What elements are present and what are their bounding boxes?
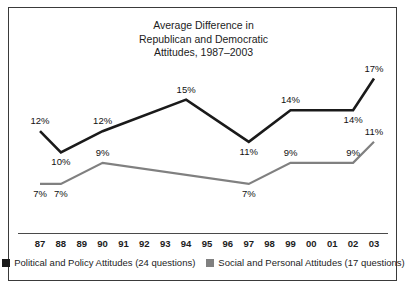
- x-axis-tick-88: 88: [56, 238, 67, 249]
- x-axis-tick-03: 03: [369, 238, 380, 249]
- series-line-social: [40, 142, 374, 184]
- x-axis-tick-98: 98: [264, 238, 275, 249]
- data-point-label: 17%: [364, 63, 383, 74]
- data-point-label: 7%: [33, 188, 47, 199]
- legend-swatch-icon: [2, 259, 10, 267]
- x-axis-line: [18, 233, 388, 234]
- x-axis-tick-93: 93: [160, 238, 171, 249]
- x-axis-tick-00: 00: [306, 238, 317, 249]
- x-axis-tick-92: 92: [139, 238, 150, 249]
- series-line-political: [40, 79, 374, 153]
- x-axis-tick-91: 91: [118, 238, 129, 249]
- data-point-label: 12%: [93, 115, 112, 126]
- data-point-label: 10%: [51, 156, 70, 167]
- data-point-label: 11%: [365, 126, 383, 137]
- x-axis-tick-97: 97: [243, 238, 254, 249]
- x-axis-tick-labels: 8788899091929394959697989900010203: [9, 238, 398, 254]
- legend-item-social: Social and Personal Attitudes (17 questi…: [206, 257, 404, 268]
- legend-swatch-icon: [206, 259, 214, 267]
- plot-area: 12%10%12%15%11%14%14%17% 7%7%9%7%9%9%11%: [9, 8, 398, 228]
- legend-label: Social and Personal Attitudes (17 questi…: [218, 257, 404, 268]
- x-axis-tick-02: 02: [348, 238, 359, 249]
- legend-item-political: Political and Policy Attitudes (24 quest…: [2, 257, 195, 268]
- data-point-label: 11%: [240, 146, 258, 157]
- x-axis-tick-95: 95: [202, 238, 213, 249]
- data-point-label: 9%: [346, 147, 360, 158]
- x-axis-tick-99: 99: [285, 238, 296, 249]
- data-point-label: 15%: [177, 84, 196, 95]
- data-point-label: 9%: [96, 147, 110, 158]
- legend-label: Political and Policy Attitudes (24 quest…: [14, 257, 195, 268]
- data-point-label: 7%: [54, 188, 68, 199]
- x-axis-tick-01: 01: [327, 238, 338, 249]
- data-point-label: 9%: [284, 147, 298, 158]
- x-axis-tick-90: 90: [97, 238, 108, 249]
- chart-container: Average Difference in Republican and Dem…: [8, 7, 397, 281]
- x-axis-tick-96: 96: [223, 238, 234, 249]
- chart-legend: Political and Policy Attitudes (24 quest…: [9, 257, 398, 268]
- x-axis-tick-94: 94: [181, 238, 192, 249]
- data-point-label: 14%: [344, 114, 363, 125]
- data-point-label: 14%: [281, 94, 300, 105]
- x-axis-tick-89: 89: [76, 238, 87, 249]
- data-point-label: 12%: [30, 115, 49, 126]
- data-point-label: 7%: [242, 188, 256, 199]
- x-axis-tick-87: 87: [35, 238, 46, 249]
